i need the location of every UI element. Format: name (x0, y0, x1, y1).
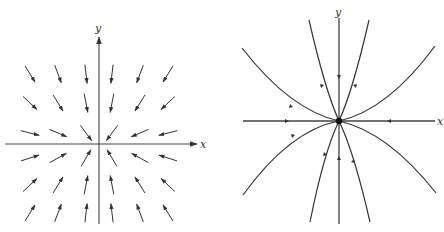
field-arrow-icon (137, 65, 144, 83)
y-axis-label: y (334, 6, 342, 19)
field-arrow-icon (111, 65, 113, 84)
field-arrow-icon (25, 66, 35, 82)
field-arrow-icon (53, 177, 63, 193)
field-arrow-icon (159, 131, 177, 136)
field-arrow-icon (55, 65, 62, 83)
trajectory-narrow-upper-left (309, 20, 339, 121)
equilibrium-point (336, 118, 342, 124)
field-arrow-icon (81, 150, 91, 166)
field-arrow-icon (137, 204, 144, 222)
field-arrow-icon (55, 204, 62, 222)
field-arrow-icon (49, 129, 66, 136)
trajectory-narrow-lower-right (339, 121, 370, 222)
field-arrow-icon (131, 129, 148, 136)
field-arrow-icon (25, 205, 35, 221)
field-arrow-icon (161, 179, 175, 192)
field-arrow-icon (135, 95, 145, 111)
phase-portrait-panel: y x (242, 6, 444, 224)
field-arrow-icon (21, 131, 39, 136)
field-arrow-icon (84, 94, 88, 113)
field-arrow-icon (23, 97, 37, 110)
field-arrow-icon (84, 176, 88, 195)
trajectory-narrow-lower-left (310, 121, 339, 222)
figure: y x y x (0, 0, 444, 232)
field-arrow-icon (85, 65, 87, 84)
field-arrow-icon (159, 155, 177, 161)
field-arrow-icon (23, 179, 37, 192)
trajectory-wide-upper-left (242, 48, 339, 121)
field-arrow-icon (107, 150, 117, 166)
field-arrow-icon (111, 204, 113, 223)
field-arrow-icon (85, 204, 87, 223)
field-arrow-icon (80, 125, 91, 140)
field-arrow-icon (53, 95, 63, 111)
trajectory-narrow-upper-right (339, 20, 369, 121)
arrow-marker-icon (353, 84, 357, 88)
trajectory-wide-lower-right (339, 121, 436, 193)
arrow-marker-icon (285, 119, 289, 123)
x-axis-label: x (437, 115, 444, 128)
y-axis-label: y (94, 22, 102, 35)
arrow-marker-icon (320, 84, 324, 88)
arrow-marker-icon (337, 156, 341, 160)
field-arrow-icon (161, 97, 175, 110)
field-arrow-icon (163, 205, 173, 221)
arrow-marker-icon (337, 75, 341, 79)
field-arrow-icon (163, 66, 173, 82)
field-arrow-icon (135, 177, 145, 193)
arrow-marker-icon (291, 134, 295, 138)
field-arrow-icon (21, 155, 39, 161)
field-arrow-icon (110, 94, 114, 113)
vector-field-panel: y x (5, 22, 207, 224)
trajectory-wide-upper-right (339, 46, 435, 121)
field-arrow-icon (132, 153, 149, 162)
arrow-marker-icon (289, 104, 293, 108)
trajectory-wide-lower-left (243, 121, 339, 195)
arrow-marker-icon (387, 119, 391, 123)
field-arrow-icon (50, 153, 67, 162)
field-arrow-icon (110, 176, 114, 195)
x-axis-label: x (200, 138, 207, 151)
field-arrow-icon (106, 125, 117, 140)
